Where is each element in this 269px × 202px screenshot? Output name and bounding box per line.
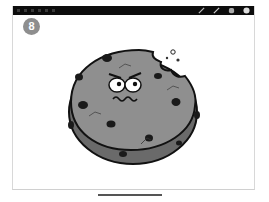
progress-scrubber[interactable] <box>98 194 162 196</box>
toolbar-right-tools <box>198 7 250 14</box>
toolbar-dot[interactable] <box>24 9 27 12</box>
pencil-icon[interactable] <box>213 7 220 14</box>
toolbar-dot[interactable] <box>17 9 20 12</box>
toolbar-dot[interactable] <box>52 9 55 12</box>
toolbar-dot[interactable] <box>31 9 34 12</box>
slide-number-badge: 8 <box>23 18 40 35</box>
toolbar-dot[interactable] <box>45 9 48 12</box>
color-icon[interactable] <box>243 7 250 14</box>
slide-frame: 8 <box>12 6 255 190</box>
eraser-icon[interactable] <box>228 7 235 14</box>
cookie-illustration <box>61 40 211 170</box>
toolbar-dot[interactable] <box>38 9 41 12</box>
pen-icon[interactable] <box>198 7 205 14</box>
top-toolbar <box>13 6 254 15</box>
toolbar-left-controls <box>17 9 55 12</box>
